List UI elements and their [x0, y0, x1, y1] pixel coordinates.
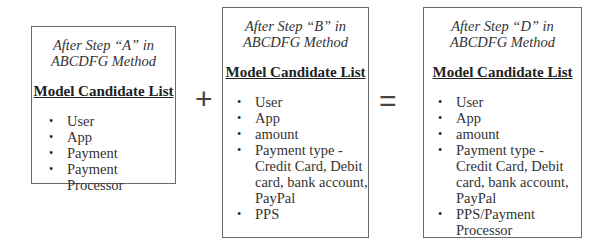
- list-item: •amount: [237, 126, 368, 142]
- subtitle-line-2: ABCDFG Method: [424, 34, 581, 50]
- step-a-candidate-list: •User •App •Payment •Payment Processor: [49, 113, 175, 193]
- list-item: •PPS/Payment Processor: [438, 206, 581, 238]
- bullet-icon: •: [237, 94, 241, 110]
- list-item: •Payment Processor: [49, 161, 175, 193]
- step-d-heading: Model Candidate List: [424, 63, 581, 81]
- bullet-icon: •: [237, 206, 241, 222]
- list-item-text: User: [67, 113, 94, 129]
- step-a-box: After Step “A” in ABCDFG Method Model Ca…: [31, 26, 176, 184]
- step-a-subtitle: After Step “A” in ABCDFG Method: [32, 37, 175, 69]
- list-item-text: Payment Processor: [67, 161, 123, 193]
- bullet-icon: •: [438, 94, 442, 110]
- list-item-text: App: [456, 110, 481, 126]
- list-item-text: PPS/Payment Processor: [456, 206, 535, 238]
- list-item: •App: [237, 110, 368, 126]
- list-item-text: Payment type - Credit Card, Debit card, …: [456, 142, 569, 206]
- list-item-text: amount: [456, 126, 500, 142]
- list-item-text: User: [456, 94, 483, 110]
- list-item: •amount: [438, 126, 581, 142]
- equals-operator: =: [379, 86, 397, 116]
- bullet-icon: •: [438, 142, 442, 158]
- list-item-text: User: [255, 94, 282, 110]
- step-b-subtitle: After Step “B” in ABCDFG Method: [223, 18, 368, 50]
- subtitle-line-2: ABCDFG Method: [32, 53, 175, 69]
- bullet-icon: •: [49, 161, 53, 177]
- bullet-icon: •: [237, 142, 241, 158]
- bullet-icon: •: [438, 206, 442, 222]
- list-item: •App: [49, 129, 175, 145]
- list-item-text: Payment type - Credit Card, Debit card, …: [255, 142, 368, 206]
- list-item-text: Payment: [67, 145, 118, 161]
- step-a-heading: Model Candidate List: [32, 82, 175, 100]
- subtitle-line-1: After Step “A” in: [32, 37, 175, 53]
- list-item: •Payment type - Credit Card, Debit card,…: [237, 142, 368, 206]
- list-item-text: App: [255, 110, 280, 126]
- list-item: •App: [438, 110, 581, 126]
- bullet-icon: •: [237, 126, 241, 142]
- bullet-icon: •: [49, 129, 53, 145]
- bullet-icon: •: [438, 126, 442, 142]
- list-item-text: PPS: [255, 206, 279, 222]
- bullet-icon: •: [49, 145, 53, 161]
- bullet-icon: •: [237, 110, 241, 126]
- subtitle-line-1: After Step “B” in: [223, 18, 368, 34]
- list-item: •PPS: [237, 206, 368, 222]
- step-d-box: After Step “D” in ABCDFG Method Model Ca…: [423, 7, 582, 238]
- subtitle-line-2: ABCDFG Method: [223, 34, 368, 50]
- bullet-icon: •: [49, 113, 53, 129]
- bullet-icon: •: [438, 110, 442, 126]
- step-d-subtitle: After Step “D” in ABCDFG Method: [424, 18, 581, 50]
- list-item: •User: [438, 94, 581, 110]
- list-item: •User: [237, 94, 368, 110]
- step-d-candidate-list: •User •App •amount •Payment type - Credi…: [438, 94, 581, 238]
- list-item: •User: [49, 113, 175, 129]
- plus-operator: +: [195, 84, 213, 114]
- list-item: •Payment type - Credit Card, Debit card,…: [438, 142, 581, 206]
- list-item: •Payment: [49, 145, 175, 161]
- step-b-candidate-list: •User •App •amount •Payment type - Credi…: [237, 94, 368, 222]
- step-b-heading: Model Candidate List: [223, 63, 368, 81]
- step-b-box: After Step “B” in ABCDFG Method Model Ca…: [222, 7, 369, 238]
- list-item-text: App: [67, 129, 92, 145]
- list-item-text: amount: [255, 126, 299, 142]
- subtitle-line-1: After Step “D” in: [424, 18, 581, 34]
